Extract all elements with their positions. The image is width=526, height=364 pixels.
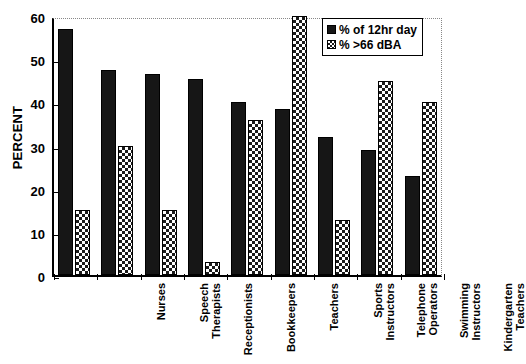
bar (145, 74, 160, 275)
y-axis-tick-label: 40 (19, 98, 45, 111)
legend-label: % of 12hr day (339, 23, 417, 37)
x-axis-category-label: Speech Therapists (199, 283, 222, 364)
x-axis-category-label: Swimming Instructors (459, 283, 482, 364)
bar (162, 210, 177, 275)
bar (361, 150, 376, 275)
x-axis-category-label: Teachers (329, 283, 341, 364)
bar (335, 220, 350, 275)
legend-item: % >66 dBA (327, 37, 417, 52)
bar (318, 137, 333, 275)
x-axis-category-label: Receptionists (243, 283, 255, 364)
x-axis-tick (401, 274, 402, 280)
x-axis-tick (184, 274, 185, 280)
legend-swatch-solid-icon (327, 25, 336, 34)
bar (292, 16, 307, 275)
y-axis-tick-label: 0 (19, 271, 45, 284)
x-axis-category-label: Sports Instructors (373, 283, 396, 364)
bar (58, 29, 73, 275)
bar (101, 70, 116, 275)
bar (231, 102, 246, 275)
bar (205, 262, 220, 275)
y-axis-tick-label: 60 (19, 12, 45, 25)
legend: % of 12hr day % >66 dBA (322, 18, 423, 56)
x-axis-tick (271, 274, 272, 280)
x-axis-category-label: Bookkeepers (286, 283, 298, 364)
x-axis-tick (141, 274, 142, 280)
bar (422, 102, 437, 275)
x-axis-tick (54, 274, 55, 280)
bar (118, 146, 133, 276)
bar (378, 81, 393, 275)
y-axis-tick-label: 30 (19, 142, 45, 155)
bar (188, 79, 203, 275)
x-axis-category-label: Nurses (156, 283, 168, 364)
plot-area (52, 18, 442, 277)
y-axis-tick-label: 50 (19, 55, 45, 68)
x-axis-tick (227, 274, 228, 280)
x-axis-tick (444, 274, 445, 280)
x-axis-tick (97, 274, 98, 280)
y-axis-tick-label: 20 (19, 185, 45, 198)
x-axis-tick (357, 274, 358, 280)
bar (405, 176, 420, 275)
bar (75, 210, 90, 275)
legend-item: % of 12hr day (327, 22, 417, 37)
bar (275, 109, 290, 275)
x-axis-tick (314, 274, 315, 280)
bar (248, 120, 263, 275)
legend-swatch-checker-icon (327, 40, 336, 49)
y-axis-tick-label: 10 (19, 228, 45, 241)
x-axis-category-label: Telephone Operators (416, 283, 439, 364)
legend-label: % >66 dBA (339, 38, 401, 52)
x-axis-category-label: Kindergarten Teachers (503, 283, 526, 364)
